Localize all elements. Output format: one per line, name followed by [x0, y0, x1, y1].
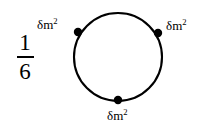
figure-canvas: 1 6 δm2 δm2 δm2 [0, 0, 210, 128]
mass-point-bottom [114, 96, 122, 104]
mass-label-upper-right-base: δm [166, 18, 182, 33]
mass-label-bottom-base: δm [107, 108, 123, 123]
mass-label-upper-right: δm2 [166, 19, 187, 32]
mass-label-bottom: δm2 [107, 109, 128, 122]
mass-label-bottom-exponent: 2 [123, 107, 127, 117]
mass-label-upper-left-base: δm [37, 17, 53, 32]
mass-label-upper-left-exponent: 2 [53, 16, 57, 26]
circle-outline [74, 13, 162, 101]
mass-point-upper-left [74, 28, 82, 36]
mass-label-upper-right-exponent: 2 [182, 17, 186, 27]
mass-label-upper-left: δm2 [37, 18, 58, 31]
mass-point-upper-right [154, 29, 162, 37]
